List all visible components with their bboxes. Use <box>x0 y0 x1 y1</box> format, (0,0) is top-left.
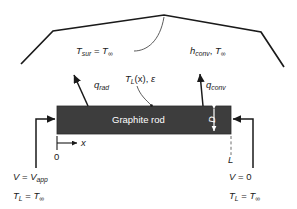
radiation-flux-arrow <box>74 75 88 106</box>
left-temperature-condition: TL = T∞ <box>13 191 44 201</box>
graphite-rod-label: Graphite rod <box>112 115 165 125</box>
right-voltage-condition: V = 0 <box>229 172 251 182</box>
right-electrode-lead <box>233 119 253 168</box>
surroundings-leader-line <box>134 17 164 51</box>
x-axis-label: x <box>81 138 86 148</box>
left-voltage-condition: V = Vapp <box>13 172 48 182</box>
right-temperature-condition: TL = T∞ <box>229 191 260 201</box>
surroundings-temperature-label: Tsur = T∞ <box>76 46 113 56</box>
convection-flux-label: qconv <box>206 80 226 90</box>
thermal-system-diagram: Tsur = T∞ hconv, T∞ qrad qconv TL(x), ε … <box>0 0 297 209</box>
rod-temperature-field-label: TL(x), ε <box>125 74 155 84</box>
convection-condition-label: hconv, T∞ <box>190 46 226 56</box>
convection-flux-arrow <box>200 74 203 106</box>
rod-length-label: L <box>228 155 233 165</box>
x-origin-label: 0 <box>54 152 59 162</box>
rod-temperature-leader-line <box>137 86 151 105</box>
surroundings-boundary-line <box>21 15 284 67</box>
radiation-flux-label: qrad <box>94 80 109 90</box>
diameter-label: D <box>208 116 217 123</box>
rod-temperature-leader-dot <box>150 104 153 107</box>
left-electrode-lead <box>36 119 55 168</box>
